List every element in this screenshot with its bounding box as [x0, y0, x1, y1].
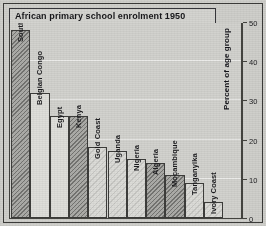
bar-label: Moçambique: [170, 140, 179, 187]
y-tick-label: 50: [249, 19, 257, 28]
bar-label: Egypt: [55, 107, 64, 128]
bar: Kenya: [69, 116, 88, 218]
chart-title: African primary school enrolment 1950: [10, 11, 185, 21]
y-axis: 01020304050: [242, 23, 254, 219]
bar: Belgian Congo: [30, 93, 49, 218]
bar-label: Uganda: [113, 135, 122, 163]
y-tick-label: 40: [249, 58, 257, 67]
bar-label: Gold Coast: [93, 118, 102, 159]
bar: Egypt: [50, 116, 69, 218]
bar: Ivory Coast: [204, 202, 223, 218]
bar-label: Kenya: [74, 105, 83, 128]
plot-area: Southern RhodesiaBelgian CongoEgyptKenya…: [9, 23, 242, 219]
bar: Southern Rhodesia: [11, 30, 30, 218]
bar-label: Tanganyika: [190, 153, 199, 195]
bar-label: Nigeria: [132, 145, 141, 171]
bar-label: Algeria: [151, 149, 160, 175]
y-tick-0: [243, 218, 247, 219]
bar: Nigeria: [127, 159, 146, 218]
y-tick-10: [243, 179, 247, 180]
bar-label: Southern Rhodesia: [16, 23, 25, 42]
bar: Tanganyika: [185, 183, 204, 218]
y-tick-30: [243, 100, 247, 101]
chart-figure: African primary school enrolment 1950 So…: [0, 0, 266, 226]
bar: Gold Coast: [88, 147, 107, 218]
y-axis-title: Percent of age group: [222, 28, 231, 110]
bar-label: Belgian Congo: [35, 50, 44, 104]
bar: Moçambique: [165, 175, 184, 218]
y-tick-label: 20: [249, 136, 257, 145]
y-tick-50: [243, 22, 247, 23]
y-tick-label: 10: [249, 175, 257, 184]
y-tick-label: 30: [249, 97, 257, 106]
bar-label: Ivory Coast: [209, 172, 218, 214]
y-tick-20: [243, 140, 247, 141]
y-tick-label: 0: [249, 215, 253, 224]
plot-inner: Southern RhodesiaBelgian CongoEgyptKenya…: [10, 23, 241, 218]
bars-layer: Southern RhodesiaBelgian CongoEgyptKenya…: [11, 23, 241, 218]
chart-title-box: African primary school enrolment 1950: [9, 8, 216, 24]
y-tick-40: [243, 61, 247, 62]
bar: Uganda: [108, 151, 127, 218]
bar: Algeria: [146, 163, 165, 218]
